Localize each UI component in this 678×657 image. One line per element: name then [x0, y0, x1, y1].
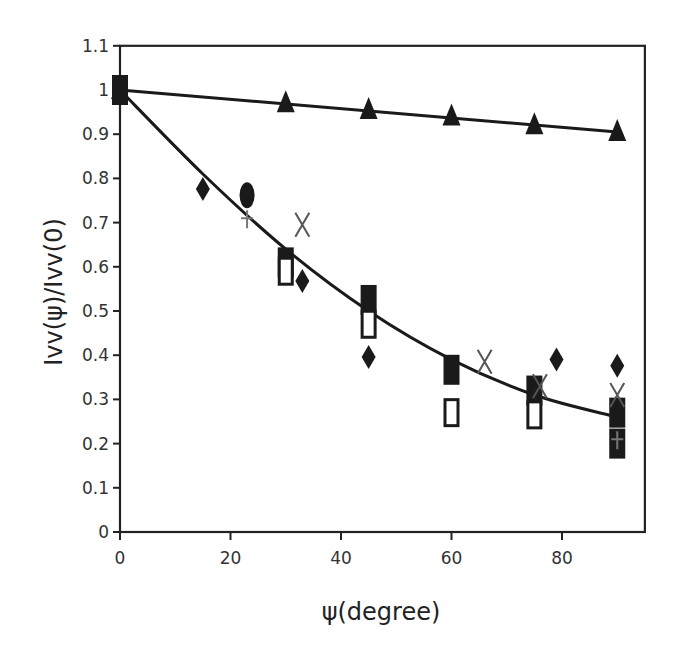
- triangle-marker: [360, 97, 378, 119]
- y-axis-title: Ivv(ψ)/Ivv(0): [40, 218, 68, 366]
- diamond-marker: [610, 354, 624, 378]
- y-tick-label: 0.4: [82, 345, 109, 365]
- triangle-marker: [277, 90, 295, 112]
- open-square-marker: [362, 311, 375, 337]
- plot-border: [120, 46, 645, 532]
- y-tick-label: 0.6: [82, 257, 109, 277]
- x-tick-label: 20: [220, 548, 242, 568]
- y-tick-label: 0.1: [82, 478, 109, 498]
- plot-frame: [120, 46, 645, 532]
- filled-square-marker: [609, 398, 625, 428]
- y-tick-label: 1: [98, 80, 109, 100]
- x-tick-label: 40: [330, 548, 352, 568]
- y-tick-label: 0.3: [82, 389, 109, 409]
- y-tick-label: 1.1: [82, 36, 109, 56]
- x-marker: [295, 213, 309, 237]
- y-tick-label: 0.2: [82, 434, 109, 454]
- open-square-marker: [279, 258, 292, 284]
- open-square-marker: [528, 402, 541, 428]
- x-tick-label: 80: [551, 548, 573, 568]
- x-axis-title: ψ(degree): [322, 598, 441, 626]
- diamond-marker: [549, 348, 563, 372]
- x-marker: [478, 350, 492, 374]
- y-tick-label: 0: [98, 522, 109, 542]
- filled-square-marker: [444, 355, 460, 385]
- open-square-marker: [445, 400, 458, 426]
- diamond-marker: [362, 345, 376, 369]
- y-tick-label: 0.9: [82, 124, 109, 144]
- axis-ticks: 02040608000.10.20.30.40.50.60.70.80.911.…: [82, 36, 573, 568]
- chart: 02040608000.10.20.30.40.50.60.70.80.911.…: [0, 0, 678, 657]
- x-tick-label: 0: [115, 548, 126, 568]
- x-tick-label: 60: [441, 548, 463, 568]
- triangle-marker: [443, 104, 461, 126]
- ellipse-marker: [240, 182, 255, 208]
- y-tick-label: 0.8: [82, 168, 109, 188]
- y-tick-label: 0.5: [82, 301, 109, 321]
- diamond-marker: [295, 269, 309, 293]
- y-tick-label: 0.7: [82, 213, 109, 233]
